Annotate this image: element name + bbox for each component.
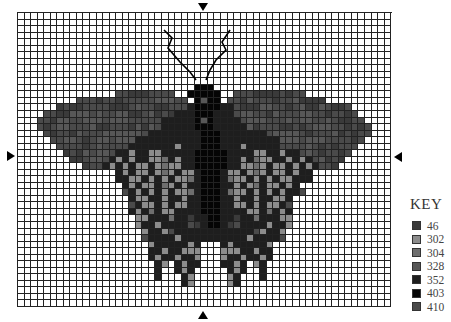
- color-swatch-icon: [412, 289, 421, 298]
- right-antenna: [206, 30, 230, 80]
- left-center-marker-icon: [7, 151, 15, 161]
- key-label: 328: [427, 260, 444, 272]
- top-center-marker-icon: [198, 3, 208, 11]
- key-item: 410: [410, 300, 450, 314]
- color-swatch-icon: [412, 248, 421, 257]
- antennae: [0, 0, 451, 322]
- color-swatch-icon: [412, 302, 421, 311]
- key-label: 46: [427, 220, 439, 232]
- key-label: 304: [427, 247, 444, 259]
- key-label: 410: [427, 301, 444, 313]
- key-label: 302: [427, 233, 444, 245]
- color-swatch-icon: [412, 262, 421, 271]
- color-key: KEY 46302304328352403410: [410, 196, 450, 314]
- bottom-center-marker-icon: [198, 311, 208, 319]
- left-antenna: [164, 30, 196, 80]
- key-label: 352: [427, 274, 444, 286]
- key-item: 403: [410, 287, 450, 301]
- color-swatch-icon: [412, 235, 421, 244]
- right-center-marker-icon: [394, 152, 402, 162]
- key-item: 304: [410, 246, 450, 260]
- key-item: 302: [410, 233, 450, 247]
- key-item: 328: [410, 260, 450, 274]
- key-title: KEY: [410, 196, 450, 213]
- color-swatch-icon: [412, 275, 421, 284]
- key-item: 352: [410, 273, 450, 287]
- key-item: 46: [410, 219, 450, 233]
- color-swatch-icon: [412, 221, 421, 230]
- key-label: 403: [427, 287, 444, 299]
